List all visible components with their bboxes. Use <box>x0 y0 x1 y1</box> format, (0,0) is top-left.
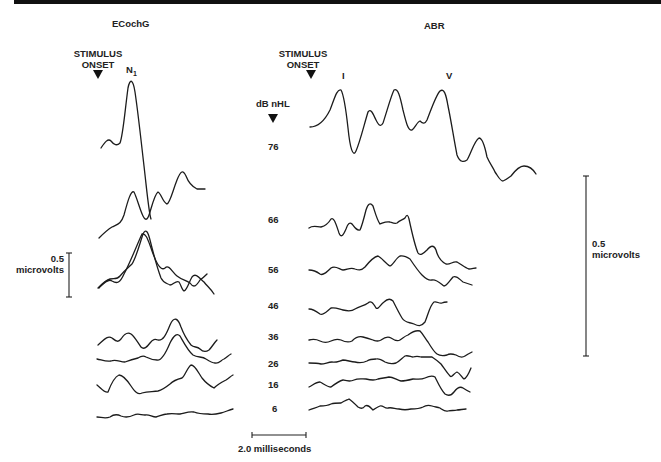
ecochg-trace-76 <box>101 81 151 219</box>
time-scale-bar <box>252 432 306 438</box>
ecochg-trace-66 <box>99 172 205 238</box>
abr-trace-36 <box>309 331 472 357</box>
abr-traces <box>309 90 536 412</box>
ecochg-traces <box>97 81 233 418</box>
abr-trace-6 <box>309 399 466 411</box>
ecochg-trace-6 <box>97 409 233 418</box>
abr-trace-66 <box>309 204 476 269</box>
ecochg-onset-triangle-icon <box>93 70 103 79</box>
level-triangle-icon <box>268 114 278 123</box>
ecochg-trace-26 <box>97 335 231 363</box>
abr-trace-76 <box>310 90 536 181</box>
ecochg-trace-36 <box>98 319 217 351</box>
abr-trace-16 <box>309 376 470 395</box>
abr-onset-triangle-icon <box>306 70 316 79</box>
left-amplitude-scale-bar <box>66 253 72 297</box>
abr-trace-56 <box>309 256 472 286</box>
ecochg-trace-16 <box>97 365 233 394</box>
waveform-plot <box>0 0 661 462</box>
right-amplitude-scale-bar <box>583 176 589 356</box>
abr-trace-46 <box>309 299 447 325</box>
abr-trace-26 <box>309 356 471 379</box>
